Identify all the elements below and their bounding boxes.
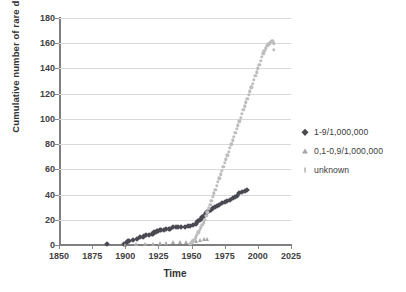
data-point-series-3 (261, 52, 264, 55)
plot-area: 020406080100120140160180 (59, 18, 291, 245)
data-point-series-3 (206, 211, 209, 214)
data-point-series-3 (242, 108, 245, 111)
data-point-series-1 (153, 230, 159, 236)
data-point-series-2 (202, 237, 206, 241)
data-point-series-1 (168, 226, 174, 232)
gridline (59, 18, 291, 19)
diamond-marker-icon (300, 127, 310, 137)
data-point-series-1 (166, 226, 172, 232)
data-point-series-3 (228, 146, 231, 149)
data-point-series-3 (193, 238, 196, 241)
data-point-series-3 (272, 48, 275, 51)
data-point-series-3 (250, 86, 253, 89)
data-point-series-3 (263, 49, 266, 52)
x-tick-label: 1875 (82, 251, 102, 261)
x-tick-label: 1950 (182, 251, 202, 261)
data-point-series-1 (134, 236, 140, 242)
data-point-series-1 (126, 238, 132, 244)
x-tick-label: 1900 (115, 251, 135, 261)
y-tick-label: 40 (45, 190, 55, 200)
x-tick-mark (158, 245, 159, 249)
y-tick-mark (55, 94, 59, 95)
data-point-series-3 (211, 195, 214, 198)
data-point-series-2 (205, 237, 209, 241)
data-point-series-3 (226, 154, 229, 157)
data-point-series-3 (196, 231, 199, 234)
x-tick-mark (59, 245, 60, 249)
data-point-series-3 (251, 82, 254, 85)
data-point-series-3 (238, 120, 241, 123)
gridline (59, 119, 291, 120)
data-point-series-1 (141, 233, 147, 239)
data-point-series-3 (194, 236, 197, 239)
legend-item-1[interactable]: 1-9/1,000,000 (300, 122, 404, 141)
x-tick-label: 1975 (215, 251, 235, 261)
data-point-series-3 (200, 223, 203, 226)
data-point-series-3 (240, 112, 243, 115)
y-axis-title: Cumulative number of rare disorders (10, 0, 21, 148)
x-tick-mark (225, 245, 226, 249)
y-tick-label: 160 (40, 38, 55, 48)
legend-item-2[interactable]: 0,1-0,9/1,000,000 (300, 141, 404, 160)
y-tick-label: 0 (50, 240, 55, 250)
data-point-series-1 (214, 203, 220, 209)
data-point-series-3 (236, 123, 239, 126)
y-tick-label: 100 (40, 114, 55, 124)
data-point-series-1 (182, 225, 188, 231)
y-tick-mark (55, 43, 59, 44)
data-point-series-3 (198, 228, 201, 231)
data-point-series-2 (184, 240, 188, 244)
data-point-series-1 (137, 235, 143, 241)
data-point-series-3 (234, 131, 237, 134)
y-tick-label: 20 (45, 215, 55, 225)
x-tick-mark (192, 245, 193, 249)
data-point-series-3 (216, 180, 219, 183)
data-point-series-1 (130, 237, 136, 243)
data-point-series-1 (158, 227, 164, 233)
data-point-series-3 (199, 226, 202, 229)
y-tick-mark (55, 220, 59, 221)
data-point-series-1 (146, 232, 152, 238)
data-point-series-3 (248, 89, 251, 92)
data-point-series-1 (187, 223, 193, 229)
data-point-series-1 (185, 223, 191, 229)
data-point-series-3 (204, 214, 207, 217)
data-point-series-1 (210, 206, 216, 212)
data-point-series-2 (164, 241, 168, 245)
y-tick-label: 180 (40, 13, 55, 23)
data-point-series-1 (201, 213, 207, 219)
x-tick-label: 1925 (148, 251, 168, 261)
data-point-series-3 (224, 158, 227, 161)
data-point-series-1 (164, 226, 170, 232)
y-tick-label: 60 (45, 164, 55, 174)
data-point-series-1 (209, 207, 215, 213)
tick-marker-icon (300, 165, 310, 175)
data-point-series-3 (214, 188, 217, 191)
legend-label: 0,1-0,9/1,000,000 (314, 146, 383, 156)
data-point-series-3 (243, 105, 246, 108)
data-point-series-1 (125, 238, 131, 244)
x-tick-label: 1850 (49, 251, 69, 261)
data-point-series-2 (198, 238, 202, 242)
x-tick-mark (258, 245, 259, 249)
data-point-series-1 (242, 188, 248, 194)
data-point-series-1 (206, 208, 212, 214)
gridline (59, 144, 291, 145)
gridline (59, 195, 291, 196)
data-point-series-3 (227, 150, 230, 153)
x-tick-label: 2025 (281, 251, 301, 261)
data-point-series-3 (222, 165, 225, 168)
legend-item-3[interactable]: unknown (300, 160, 404, 179)
y-tick-label: 80 (45, 139, 55, 149)
x-axis-title: Time (59, 268, 291, 279)
data-point-series-1 (219, 201, 225, 207)
data-point-series-2 (178, 240, 182, 244)
data-point-series-3 (254, 74, 257, 77)
y-tick-mark (55, 68, 59, 69)
data-point-series-3 (265, 44, 268, 47)
data-point-series-3 (264, 47, 267, 50)
data-point-series-3 (208, 203, 211, 206)
data-point-series-2 (194, 239, 198, 243)
chart-legend: 1-9/1,000,0000,1-0,9/1,000,000unknown (300, 122, 404, 179)
data-point-series-2 (171, 240, 175, 244)
